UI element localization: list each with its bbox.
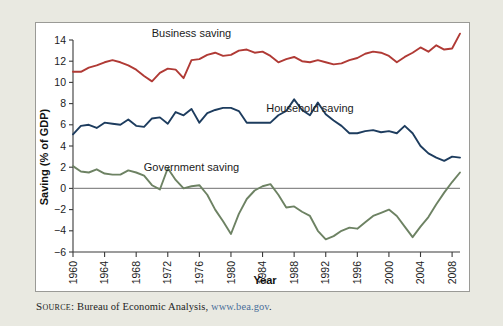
y-tick-label: 6 xyxy=(60,118,66,130)
x-tick-label: 2000 xyxy=(383,261,395,285)
y-tick-label: −2 xyxy=(54,203,66,215)
source-label: Source: xyxy=(36,300,74,312)
y-axis-ticks: −6−4−202468101214 xyxy=(54,34,73,258)
y-tick-label: 8 xyxy=(60,97,66,109)
x-tick-label: 1988 xyxy=(288,261,300,285)
series-annotations: Business savingHousehold savingGovernmen… xyxy=(144,27,354,174)
x-tick-label: 1964 xyxy=(98,261,110,285)
series-group xyxy=(73,34,460,240)
y-tick-label: 12 xyxy=(54,55,66,67)
y-tick-label: 4 xyxy=(60,140,66,152)
series-annotation: Household saving xyxy=(266,102,353,114)
x-tick-label: 1960 xyxy=(67,261,79,285)
y-tick-label: 0 xyxy=(60,182,66,194)
x-tick-label: 2008 xyxy=(446,261,458,285)
figure-container: −6−4−202468101214 1960196419681972197619… xyxy=(0,0,503,326)
source-text: Bureau of Economic Analysis, xyxy=(74,301,211,312)
y-tick-label: −4 xyxy=(54,224,66,236)
x-tick-label: 1972 xyxy=(161,261,173,285)
y-tick-label: 10 xyxy=(54,76,66,88)
y-tick-label: −6 xyxy=(54,246,66,258)
x-tick-label: 2004 xyxy=(414,261,426,285)
series-annotation: Business saving xyxy=(152,27,232,39)
y-axis-title: Saving (% of GDP) xyxy=(38,108,50,205)
x-tick-label: 1980 xyxy=(225,261,237,285)
saving-line-chart: −6−4−202468101214 1960196419681972197619… xyxy=(35,22,470,292)
series-annotation: Government saving xyxy=(144,161,239,173)
y-tick-label: 14 xyxy=(54,34,66,46)
source-trailing: . xyxy=(269,301,272,312)
series-line-business-saving xyxy=(73,34,460,82)
x-axis-title: Year xyxy=(253,274,277,286)
x-tick-label: 1996 xyxy=(351,261,363,285)
source-line: Source: Bureau of Economic Analysis, www… xyxy=(36,300,476,312)
source-link[interactable]: www.bea.gov xyxy=(211,301,269,312)
y-tick-label: 2 xyxy=(60,161,66,173)
x-tick-label: 1992 xyxy=(319,261,331,285)
series-line-government-saving xyxy=(73,166,460,239)
x-tick-label: 1976 xyxy=(193,261,205,285)
axes-group: −6−4−202468101214 1960196419681972197619… xyxy=(54,34,460,285)
x-tick-label: 1968 xyxy=(130,261,142,285)
